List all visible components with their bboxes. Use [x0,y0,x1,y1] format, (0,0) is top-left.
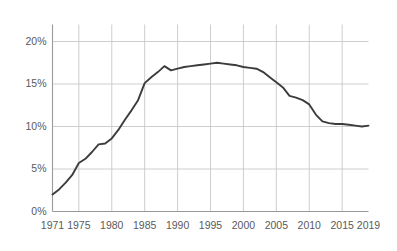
x-tick-label: 2019 [349,219,389,231]
y-tick-label: 15% [25,77,46,89]
y-tick-label: 20% [25,35,46,47]
x-gridlines [79,25,342,212]
y-tick-label: 0% [31,205,46,217]
line-chart-plot [0,0,397,251]
y-tick-label: 5% [31,162,46,174]
chart-container: 0%5%10%15%20% 19711975198019851990199520… [0,0,397,251]
y-tick-label: 10% [25,120,46,132]
